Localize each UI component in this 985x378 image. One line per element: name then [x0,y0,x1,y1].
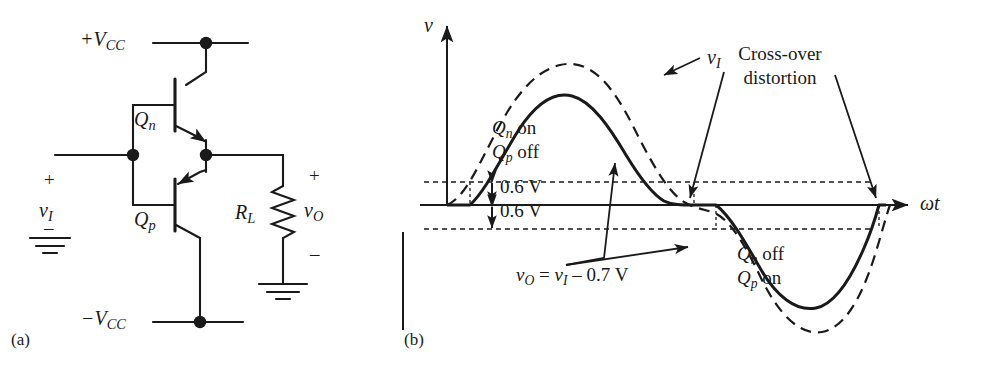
pnp-emitter-lead [178,170,206,184]
label-negative-supply: −VCC [81,307,126,333]
label-crossover-line1: Cross-over [714,43,846,65]
input-waveform-dashed [447,64,890,333]
label-input-minus: – [44,217,54,239]
output-ground-symbol [259,284,307,299]
node-dot-input [127,149,139,161]
output-lead [206,155,283,186]
label-npn-transistor: Qn [134,108,156,134]
npn-collector-lead [186,43,206,85]
leader-crossover-right [835,75,876,198]
label-load-resistor: RL [235,201,255,227]
label-crossover-line2: distortion [714,67,846,89]
panel-tag-b: (b) [404,330,424,350]
label-y-axis: v [424,14,433,37]
label-region-positive-line2: Qp off [492,141,539,166]
circuit-schematic [30,37,307,328]
label-x-axis: ωt [920,192,940,215]
npn-emitter-lead [176,126,206,142]
node-dot-output [200,149,212,161]
node-dot-negative-supply [194,316,206,328]
label-positive-supply: +VCC [80,28,125,54]
label-region-negative-line1: Qn off [737,243,784,268]
leader-transfer-eq-upper [566,163,615,265]
label-region-positive-line1: Qn on [492,117,536,142]
label-output-voltage: vO [304,199,323,225]
label-threshold-lower: 0.6 V [500,200,542,222]
load-resistor-symbol [272,186,294,284]
node-dot-positive-supply [200,37,212,49]
label-region-negative-line2: Qp on [737,267,781,292]
leader-crossover-left [690,72,724,198]
input-ground-symbol [30,238,70,253]
panel-tag-a: (a) [11,330,30,350]
label-threshold-upper: 0.6 V [500,176,542,198]
label-transfer-equation: vO = vI – 0.7 V [516,264,628,289]
leader-input-label [664,58,700,75]
label-output-minus: – [310,243,320,265]
label-output-plus: + [309,165,320,187]
label-pnp-transistor: Qp [134,208,156,234]
pnp-collector-lead [176,225,200,322]
leader-transfer-eq-lower [566,247,688,265]
label-input-plus: + [44,169,55,191]
